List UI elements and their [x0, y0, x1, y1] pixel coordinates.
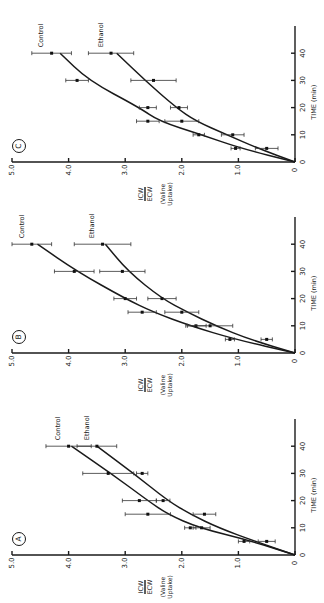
data-point-control — [73, 270, 76, 273]
figure-canvas: 01.02.03.04.05.0010203040TIME (min)ICWEC… — [0, 0, 324, 603]
value-tick-label: 1.0 — [234, 355, 242, 366]
panel-letter: C — [14, 143, 23, 148]
data-point-ethanol — [265, 540, 268, 543]
value-tick-label: 4.0 — [65, 164, 73, 175]
value-tick-label: 5.0 — [8, 557, 16, 568]
series-label-control: Control — [37, 24, 45, 48]
data-point-ethanol — [121, 270, 124, 273]
fit-curve-control — [71, 446, 295, 555]
value-axis-sublabel: Uptake) — [166, 373, 174, 397]
value-axis-sublabel: Uptake) — [166, 575, 174, 599]
data-point-control — [67, 445, 70, 448]
value-axis-label-numerator: ICW — [137, 187, 145, 200]
data-point-ethanol — [180, 120, 183, 123]
data-point-ethanol — [141, 472, 144, 475]
data-point-ethanol — [177, 106, 180, 109]
value-tick-label: 2.0 — [178, 164, 186, 175]
value-axis-label-denominator: ECW — [146, 579, 154, 595]
data-point-ethanol — [231, 133, 234, 136]
time-tick-label: 0 — [299, 553, 307, 557]
data-point-ethanol — [160, 297, 163, 300]
series-label-ethanol: Ethanol — [97, 22, 105, 47]
panel-b — [12, 217, 295, 392]
panel-letter: B — [14, 334, 23, 339]
value-tick-label: 2.0 — [178, 355, 186, 366]
panel-c — [12, 26, 295, 201]
value-tick-label: 0 — [291, 561, 299, 565]
time-tick-label: 20 — [299, 294, 307, 303]
value-tick-label: 5.0 — [8, 355, 16, 366]
time-tick-label: 0 — [299, 351, 307, 355]
data-point-ethanol — [209, 324, 212, 327]
time-tick-label: 40 — [299, 49, 307, 58]
value-tick-label: 5.0 — [8, 164, 16, 175]
value-tick-label: 0 — [291, 168, 299, 172]
data-point-ethanol — [265, 338, 268, 341]
time-tick-label: 30 — [299, 76, 307, 85]
time-tick-label: 20 — [299, 103, 307, 112]
figure: 01.02.03.04.05.0010203040TIME (min)ICWEC… — [0, 0, 324, 603]
data-point-control — [141, 311, 144, 314]
time-tick-label: 10 — [299, 130, 307, 139]
value-axis-label-denominator: ECW — [146, 186, 154, 202]
data-point-ethanol — [95, 445, 98, 448]
time-tick-label: 40 — [299, 240, 307, 249]
time-tick-label: 0 — [299, 160, 307, 164]
value-axis-sublabel: Uptake) — [166, 182, 174, 206]
data-point-control — [189, 526, 192, 529]
data-point-ethanol — [203, 513, 206, 516]
panel-letter: A — [14, 536, 23, 542]
data-point-control — [50, 52, 53, 55]
value-tick-label: 4.0 — [65, 557, 73, 568]
data-point-ethanol — [101, 243, 104, 246]
data-point-ethanol — [180, 311, 183, 314]
data-point-control — [146, 120, 149, 123]
data-point-control — [146, 513, 149, 516]
panel-a — [12, 419, 295, 594]
series-label-ethanol: Ethanol — [88, 213, 96, 238]
data-point-ethanol — [162, 499, 165, 502]
value-tick-label: 3.0 — [121, 355, 129, 366]
data-point-control — [146, 106, 149, 109]
time-tick-label: 10 — [299, 523, 307, 532]
data-point-ethanol — [265, 147, 268, 150]
value-tick-label: 4.0 — [65, 355, 73, 366]
value-tick-label: 2.0 — [178, 557, 186, 568]
data-point-control — [234, 147, 237, 150]
value-axis-label-numerator: ICW — [137, 378, 145, 391]
time-axis-label: TIME (min) — [310, 276, 318, 312]
value-axis-sublabel: (Valine — [159, 576, 166, 597]
value-axis-label-denominator: ECW — [146, 377, 154, 393]
data-point-control — [30, 243, 33, 246]
value-tick-label: 3.0 — [121, 557, 129, 568]
data-point-ethanol — [110, 52, 113, 55]
data-point-control — [124, 297, 127, 300]
series-label-ethanol: Ethanol — [83, 415, 91, 440]
time-axis-label: TIME (min) — [310, 85, 318, 121]
data-point-control — [228, 338, 231, 341]
data-point-control — [243, 540, 246, 543]
value-axis-sublabel: (Valine — [159, 183, 166, 204]
data-point-control — [76, 79, 79, 82]
time-tick-label: 20 — [299, 496, 307, 505]
data-point-control — [107, 472, 110, 475]
time-tick-label: 40 — [299, 442, 307, 451]
data-point-ethanol — [200, 526, 203, 529]
data-point-control — [138, 499, 141, 502]
value-axis-sublabel: (Valine — [159, 374, 166, 395]
time-axis-label: TIME (min) — [310, 478, 318, 514]
time-tick-label: 30 — [299, 469, 307, 478]
data-point-control — [197, 133, 200, 136]
data-point-ethanol — [152, 79, 155, 82]
value-tick-label: 3.0 — [121, 164, 129, 175]
value-tick-label: 1.0 — [234, 557, 242, 568]
time-tick-label: 30 — [299, 267, 307, 276]
series-label-control: Control — [54, 417, 62, 441]
value-tick-label: 0 — [291, 359, 299, 363]
series-label-control: Control — [18, 215, 26, 239]
value-tick-label: 1.0 — [234, 164, 242, 175]
value-axis-label-numerator: ICW — [137, 580, 145, 593]
time-tick-label: 10 — [299, 321, 307, 330]
